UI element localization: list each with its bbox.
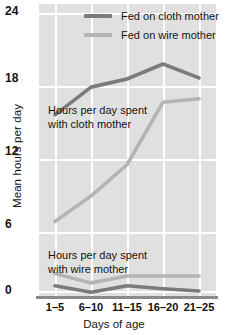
line-chart: Mean hours per day 24 18 12 6 0: [0, 0, 228, 335]
x-tick-21-25: 21–25: [177, 301, 221, 313]
y-tick-18: 18: [5, 71, 37, 85]
annotation-cloth-line1: Hours per day spent: [48, 104, 147, 118]
y-tick-12: 12: [5, 144, 37, 158]
series-cloth-fed-with-wire-mother: [55, 286, 199, 292]
legend: Fed on cloth mother Fed on wire mother: [84, 8, 219, 46]
legend-label-cloth: Fed on cloth mother: [121, 10, 219, 22]
annotation-wire-line1: Hours per day spent: [48, 249, 147, 263]
x-axis-line: [36, 296, 218, 299]
annotation-cloth-mother: Hours per day spent with cloth mother: [48, 104, 147, 131]
legend-item-cloth: Fed on cloth mother: [84, 8, 219, 24]
y-tick-24: 24: [5, 4, 37, 18]
x-axis-title: Days of age: [0, 318, 228, 330]
legend-swatch-wire: [84, 33, 112, 37]
y-tick-0: 0: [5, 283, 37, 297]
y-tick-6: 6: [5, 217, 37, 231]
annotation-wire-mother: Hours per day spent with wire mother: [48, 249, 147, 276]
y-axis-tick-labels: 24 18 12 6 0: [0, 0, 37, 335]
legend-swatch-cloth: [84, 14, 112, 18]
legend-item-wire: Fed on wire mother: [84, 27, 219, 43]
annotation-cloth-line2: with cloth mother: [48, 118, 147, 132]
annotation-wire-line2: with wire mother: [48, 263, 147, 277]
legend-label-wire: Fed on wire mother: [121, 29, 216, 41]
